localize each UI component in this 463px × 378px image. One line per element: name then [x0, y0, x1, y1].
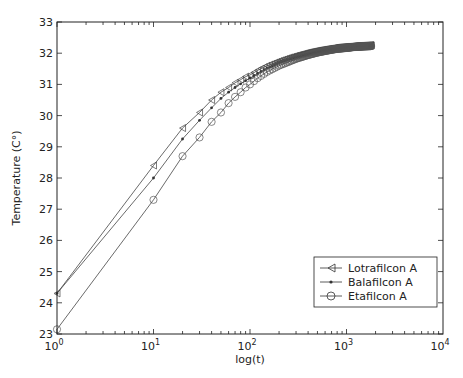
x-tick-label: 102: [237, 338, 256, 353]
y-tick-label: 28: [39, 172, 53, 185]
y-axis-title: Temperature (C°): [10, 131, 23, 227]
legend-label: Balafilcon A: [348, 276, 413, 289]
dot-marker-icon: [329, 280, 332, 283]
legend-label: Lotrafilcon A: [348, 262, 417, 275]
x-tick-label: 104: [430, 338, 449, 353]
y-tick-label: 33: [39, 16, 53, 29]
y-tick-label: 31: [39, 78, 53, 91]
legend-label: Etafilcon A: [348, 290, 407, 303]
y-tick-label: 32: [39, 47, 53, 60]
y-tick-label: 23: [39, 328, 53, 341]
x-axis-title: log(t): [235, 353, 265, 366]
legend: Lotrafilcon A Balafilcon A Etafilcon A: [314, 257, 437, 307]
y-tick-label: 29: [39, 141, 53, 154]
x-tick-label: 103: [334, 338, 353, 353]
y-tick-label: 25: [39, 266, 53, 279]
y-tick-label: 24: [39, 297, 53, 310]
y-tick-label: 30: [39, 110, 53, 123]
y-tick-label: 26: [39, 234, 53, 247]
x-tick-label: 101: [141, 338, 160, 353]
chart: 100101102103104 2324252627282930313233 l…: [0, 0, 463, 378]
y-tick-label: 27: [39, 203, 53, 216]
